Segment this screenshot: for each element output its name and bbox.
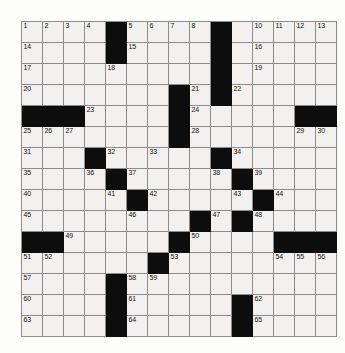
crossword-cell[interactable] [64,43,85,64]
crossword-cell[interactable]: 19 [253,64,274,85]
crossword-cell[interactable]: 20 [22,85,43,106]
crossword-cell[interactable] [148,295,169,316]
crossword-cell[interactable] [295,274,316,295]
crossword-cell[interactable] [190,64,211,85]
crossword-cell[interactable] [85,64,106,85]
crossword-cell[interactable] [106,127,127,148]
crossword-cell[interactable]: 38 [211,169,232,190]
crossword-cell[interactable]: 52 [43,253,64,274]
crossword-cell[interactable]: 60 [22,295,43,316]
crossword-cell[interactable] [43,169,64,190]
crossword-cell[interactable] [85,274,106,295]
crossword-cell[interactable] [253,85,274,106]
crossword-cell[interactable] [295,169,316,190]
crossword-cell[interactable] [232,232,253,253]
crossword-cell[interactable] [64,211,85,232]
crossword-cell[interactable] [253,253,274,274]
crossword-cell[interactable]: 23 [85,106,106,127]
crossword-cell[interactable] [274,127,295,148]
crossword-cell[interactable]: 5 [127,22,148,43]
crossword-cell[interactable] [64,85,85,106]
crossword-cell[interactable] [127,253,148,274]
crossword-cell[interactable]: 59 [148,274,169,295]
crossword-cell[interactable] [316,190,337,211]
crossword-cell[interactable] [232,127,253,148]
crossword-cell[interactable] [85,127,106,148]
crossword-cell[interactable] [43,295,64,316]
crossword-cell[interactable] [43,274,64,295]
crossword-cell[interactable] [295,43,316,64]
crossword-cell[interactable]: 3 [64,22,85,43]
crossword-cell[interactable]: 54 [274,253,295,274]
crossword-cell[interactable] [211,316,232,337]
crossword-cell[interactable] [43,64,64,85]
crossword-cell[interactable] [316,274,337,295]
crossword-cell[interactable]: 43 [232,190,253,211]
crossword-cell[interactable] [190,190,211,211]
crossword-cell[interactable] [211,295,232,316]
crossword-cell[interactable]: 14 [22,43,43,64]
crossword-cell[interactable] [169,295,190,316]
crossword-cell[interactable]: 13 [316,22,337,43]
crossword-cell[interactable]: 10 [253,22,274,43]
crossword-cell[interactable]: 6 [148,22,169,43]
crossword-cell[interactable] [211,232,232,253]
crossword-cell[interactable] [127,106,148,127]
crossword-cell[interactable] [169,274,190,295]
crossword-cell[interactable] [232,43,253,64]
crossword-cell[interactable]: 40 [22,190,43,211]
crossword-cell[interactable]: 4 [85,22,106,43]
crossword-cell[interactable]: 2 [43,22,64,43]
crossword-cell[interactable]: 33 [148,148,169,169]
crossword-cell[interactable] [148,211,169,232]
crossword-cell[interactable] [316,148,337,169]
crossword-cell[interactable]: 30 [316,127,337,148]
crossword-cell[interactable]: 26 [43,127,64,148]
crossword-cell[interactable] [127,232,148,253]
crossword-cell[interactable]: 39 [253,169,274,190]
crossword-cell[interactable] [274,211,295,232]
crossword-cell[interactable] [127,64,148,85]
crossword-cell[interactable]: 51 [22,253,43,274]
crossword-cell[interactable]: 58 [127,274,148,295]
crossword-cell[interactable] [148,169,169,190]
crossword-cell[interactable] [295,85,316,106]
crossword-cell[interactable]: 8 [190,22,211,43]
crossword-cell[interactable] [85,85,106,106]
crossword-cell[interactable] [106,232,127,253]
crossword-cell[interactable] [253,106,274,127]
crossword-cell[interactable] [148,64,169,85]
crossword-cell[interactable] [274,169,295,190]
crossword-cell[interactable] [211,274,232,295]
crossword-cell[interactable]: 34 [232,148,253,169]
crossword-cell[interactable] [295,148,316,169]
crossword-cell[interactable] [64,274,85,295]
crossword-cell[interactable] [316,316,337,337]
crossword-cell[interactable] [64,169,85,190]
crossword-cell[interactable] [253,232,274,253]
crossword-cell[interactable] [232,22,253,43]
crossword-cell[interactable]: 37 [127,169,148,190]
crossword-cell[interactable] [43,190,64,211]
crossword-cell[interactable] [127,127,148,148]
crossword-cell[interactable]: 24 [190,106,211,127]
crossword-cell[interactable]: 36 [85,169,106,190]
crossword-cell[interactable] [316,295,337,316]
crossword-cell[interactable]: 64 [127,316,148,337]
crossword-cell[interactable]: 45 [22,211,43,232]
crossword-cell[interactable]: 28 [190,127,211,148]
crossword-cell[interactable] [169,190,190,211]
crossword-cell[interactable] [43,43,64,64]
crossword-cell[interactable] [295,190,316,211]
crossword-cell[interactable] [127,148,148,169]
crossword-cell[interactable] [85,295,106,316]
crossword-cell[interactable] [169,43,190,64]
crossword-cell[interactable] [316,211,337,232]
crossword-cell[interactable]: 1 [22,22,43,43]
crossword-cell[interactable]: 53 [169,253,190,274]
crossword-cell[interactable] [85,211,106,232]
crossword-cell[interactable] [85,253,106,274]
crossword-cell[interactable]: 42 [148,190,169,211]
crossword-cell[interactable]: 56 [316,253,337,274]
crossword-cell[interactable] [316,64,337,85]
